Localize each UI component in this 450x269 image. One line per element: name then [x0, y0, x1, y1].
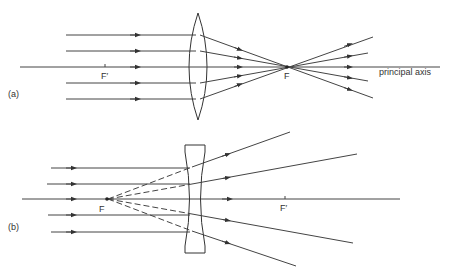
label-f-prime-a: F′ — [101, 71, 108, 81]
label-f-a: F — [284, 71, 290, 81]
label-part-a: (a) — [8, 89, 19, 99]
part-a-converging-lens: F F′ principal axis (a) — [8, 13, 440, 120]
label-part-b: (b) — [8, 222, 19, 232]
label-f-b: F — [99, 204, 105, 214]
part-b-diverging-lens: F F′ (b) — [8, 132, 400, 266]
focal-point-f-b — [105, 197, 109, 201]
label-principal-axis: principal axis — [379, 67, 432, 77]
label-f-prime-b: F′ — [280, 203, 287, 213]
focal-point-f-a — [285, 65, 289, 69]
lens-diagram: F F′ principal axis (a) — [0, 0, 450, 269]
